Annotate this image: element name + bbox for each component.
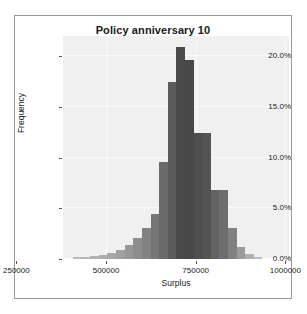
x-tick-label: 750000	[182, 266, 209, 275]
y-tick-mark	[59, 56, 62, 57]
x-tick-label: 1000000	[270, 266, 301, 275]
x-tick-mark	[106, 261, 107, 264]
x-tick-mark	[196, 261, 197, 264]
x-axis-label: Surplus	[63, 278, 289, 288]
y-tick-mark	[59, 158, 62, 159]
y-tick-mark	[59, 208, 62, 209]
x-tick-label: 500000	[93, 266, 120, 275]
chart-frame: Policy anniversary 10 Frequency 0.0%5.0%…	[14, 15, 292, 299]
y-tick-mark	[59, 107, 62, 108]
y-tick-label: 10.0%	[251, 153, 291, 162]
y-tick-label: 5.0%	[251, 203, 291, 212]
y-tick-mark	[59, 259, 62, 260]
x-tick-mark	[285, 261, 286, 264]
x-tick-mark	[16, 261, 17, 264]
axes-layer: 0.0%5.0%10.0%15.0%20.0%25000050000075000…	[15, 16, 291, 298]
y-tick-label: 15.0%	[251, 102, 291, 111]
y-tick-label: 20.0%	[251, 51, 291, 60]
x-tick-label: 250000	[3, 266, 30, 275]
